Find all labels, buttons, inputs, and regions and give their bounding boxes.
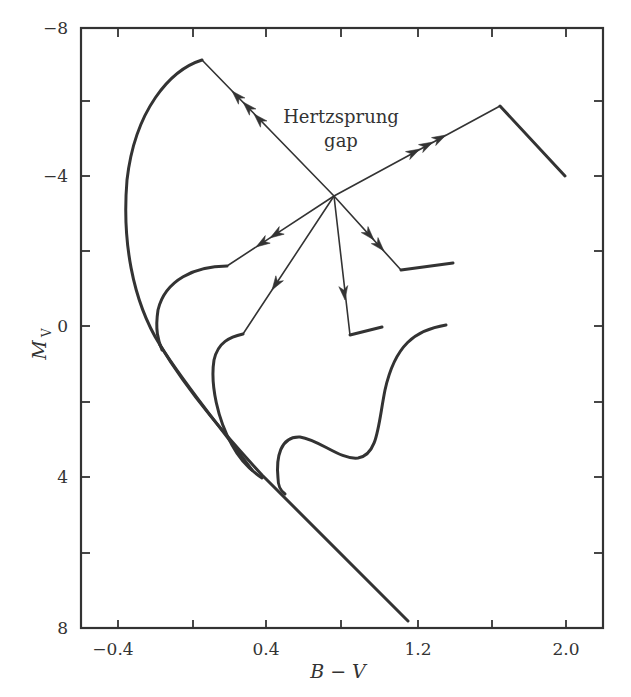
- arrow-icon: [268, 227, 285, 242]
- x-axis-ticks-top: [118, 28, 566, 37]
- arrow-icon: [419, 138, 436, 153]
- y-axis-title: M V: [28, 328, 54, 361]
- y-tick-label: −8: [43, 18, 68, 38]
- arrow-icon: [406, 145, 423, 160]
- x-axis-title: B − V: [309, 660, 368, 682]
- x-tick-label: 1.2: [404, 639, 431, 659]
- y-tick-label: 0: [57, 316, 68, 336]
- arrow-icon: [254, 236, 271, 251]
- hertzsprung-gap-label-line2: gap: [324, 130, 358, 151]
- arrow-icon: [268, 276, 283, 293]
- y-axis-title-main: M: [28, 340, 50, 361]
- track-3: [213, 334, 262, 478]
- x-tick-label: 0.4: [252, 639, 279, 659]
- hertzsprung-gap-label-line1: Hertzsprung: [283, 106, 399, 127]
- giant-branch-1: [500, 106, 565, 176]
- y-axis-title-subscript: V: [40, 328, 54, 338]
- x-tick-label: 2.0: [552, 639, 579, 659]
- track-1: [126, 60, 252, 470]
- track-2: [157, 266, 227, 350]
- y-tick-label: −4: [43, 166, 68, 186]
- track-4: [278, 325, 446, 494]
- y-axis-ticks-left: [81, 101, 90, 553]
- x-axis-ticks-bottom: [118, 620, 566, 628]
- x-tick-label: −0.4: [92, 639, 133, 659]
- y-tick-label: 4: [57, 467, 68, 487]
- giant-branch-3: [350, 327, 382, 335]
- main-sequence-line: [160, 345, 408, 621]
- arrow-icon: [432, 131, 449, 146]
- evolution-rays: [202, 60, 500, 335]
- y-tick-label: 8: [57, 618, 68, 638]
- giant-branch-2: [401, 263, 453, 270]
- hr-diagram: −8 −4 0 4 8 −0.4 0.4 1.2 2.0 B − V M V H…: [0, 0, 631, 697]
- y-axis-ticks-right: [594, 101, 603, 553]
